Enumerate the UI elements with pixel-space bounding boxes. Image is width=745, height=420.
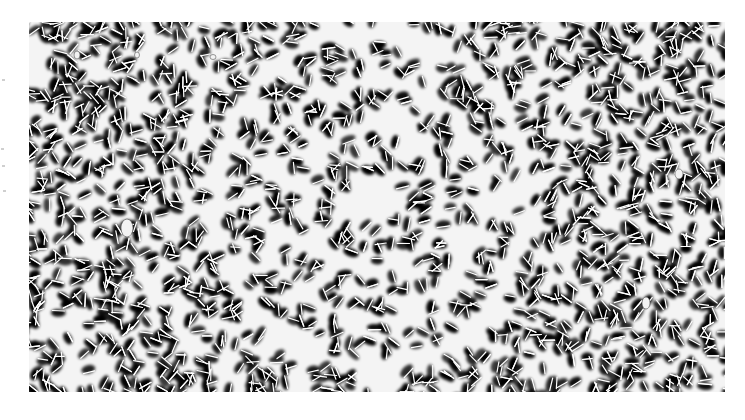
white-blob [74,51,80,59]
margin-mark [3,190,6,192]
photo-canvas [29,22,725,392]
margin-mark [1,148,4,150]
white-blob [135,52,140,58]
particle-ring-photograph [29,22,725,392]
white-blob [210,55,216,60]
margin-mark [2,79,5,81]
white-blob [675,169,683,179]
margin-mark [2,165,5,167]
white-blob [642,297,650,309]
white-blob [121,219,133,237]
